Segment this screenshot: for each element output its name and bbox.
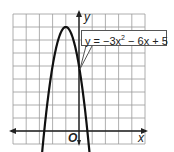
origin-label: O — [68, 131, 77, 145]
equation-text-pre: y = −3x — [85, 35, 121, 47]
equation-callout-pointer — [80, 46, 92, 69]
equation-label: y = −3x2 − 6x + 5 — [81, 30, 167, 46]
y-axis-label: y — [84, 10, 90, 24]
x-axis-label: x — [138, 131, 144, 145]
equation-text-post: − 6x + 5 — [125, 35, 168, 47]
